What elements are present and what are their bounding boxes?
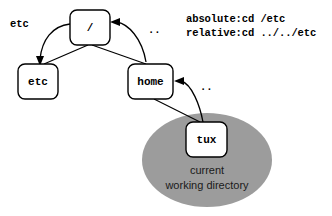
nav-label-tux-to-home: .. [200,81,213,93]
node-tux-label: tux [197,134,217,146]
diagram-canvas: / etc home tux etc .. .. absolute:cd /et… [0,0,332,216]
absolute-path-command: absolute:cd /etc [186,13,285,25]
cwd-caption-line-1: current [190,164,224,176]
node-etc-label: etc [28,76,48,88]
nav-label-root-to-etc: etc [10,18,29,30]
relative-path-command: relative:cd ../../etc [186,27,316,39]
nav-label-home-to-root: .. [148,24,161,36]
node-root-label: / [87,22,94,34]
nav-arrow-home-to-root [117,22,146,62]
tree-edge-root-etc [44,45,88,64]
filesystem-tree-diagram: / etc home tux etc .. .. absolute:cd /et… [0,0,332,216]
nav-arrow-root-to-etc [40,24,70,59]
cwd-caption-line-2: working directory [164,179,249,191]
nav-arrow-tux-to-home-head [174,77,184,85]
node-home-label: home [137,76,164,88]
tree-edge-root-home [92,45,146,64]
nav-arrow-home-to-root-head [110,18,120,26]
